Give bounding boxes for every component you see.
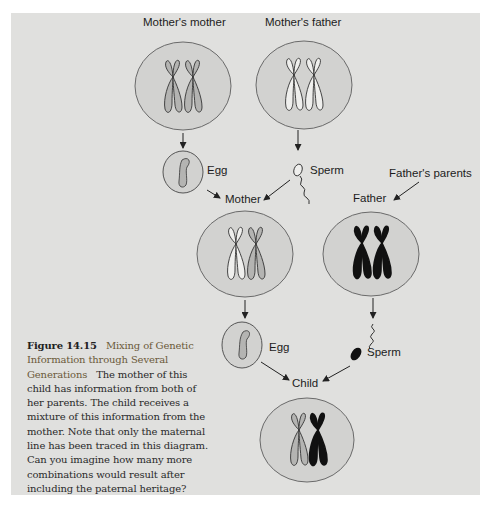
cell-mother: [197, 211, 293, 297]
cell-child: [260, 398, 354, 482]
label-fathers-parents: Father's parents: [389, 167, 472, 179]
figure-number: Figure 14.15: [27, 340, 97, 351]
egg-1: [163, 151, 203, 193]
cell-father: [323, 212, 419, 296]
egg-2: [222, 322, 262, 368]
cell-mothers-father: [256, 41, 352, 129]
label-father: Father: [353, 192, 386, 204]
label-sperm-1: Sperm: [310, 164, 344, 176]
label-sperm-2: Sperm: [367, 346, 401, 358]
cell-mothers-mother: [135, 42, 231, 130]
label-mothers-father: Mother's father: [265, 16, 341, 28]
label-egg-2: Egg: [269, 341, 289, 353]
label-mother: Mother: [225, 193, 261, 205]
figure-caption: Figure 14.15 Mixing of Genetic Informati…: [27, 339, 212, 496]
sperm-1: [292, 163, 309, 204]
figure-body: The mother of this child has information…: [27, 369, 208, 494]
label-mothers-mother: Mother's mother: [143, 16, 226, 28]
label-egg-1: Egg: [207, 164, 227, 176]
label-child: Child: [292, 377, 318, 389]
